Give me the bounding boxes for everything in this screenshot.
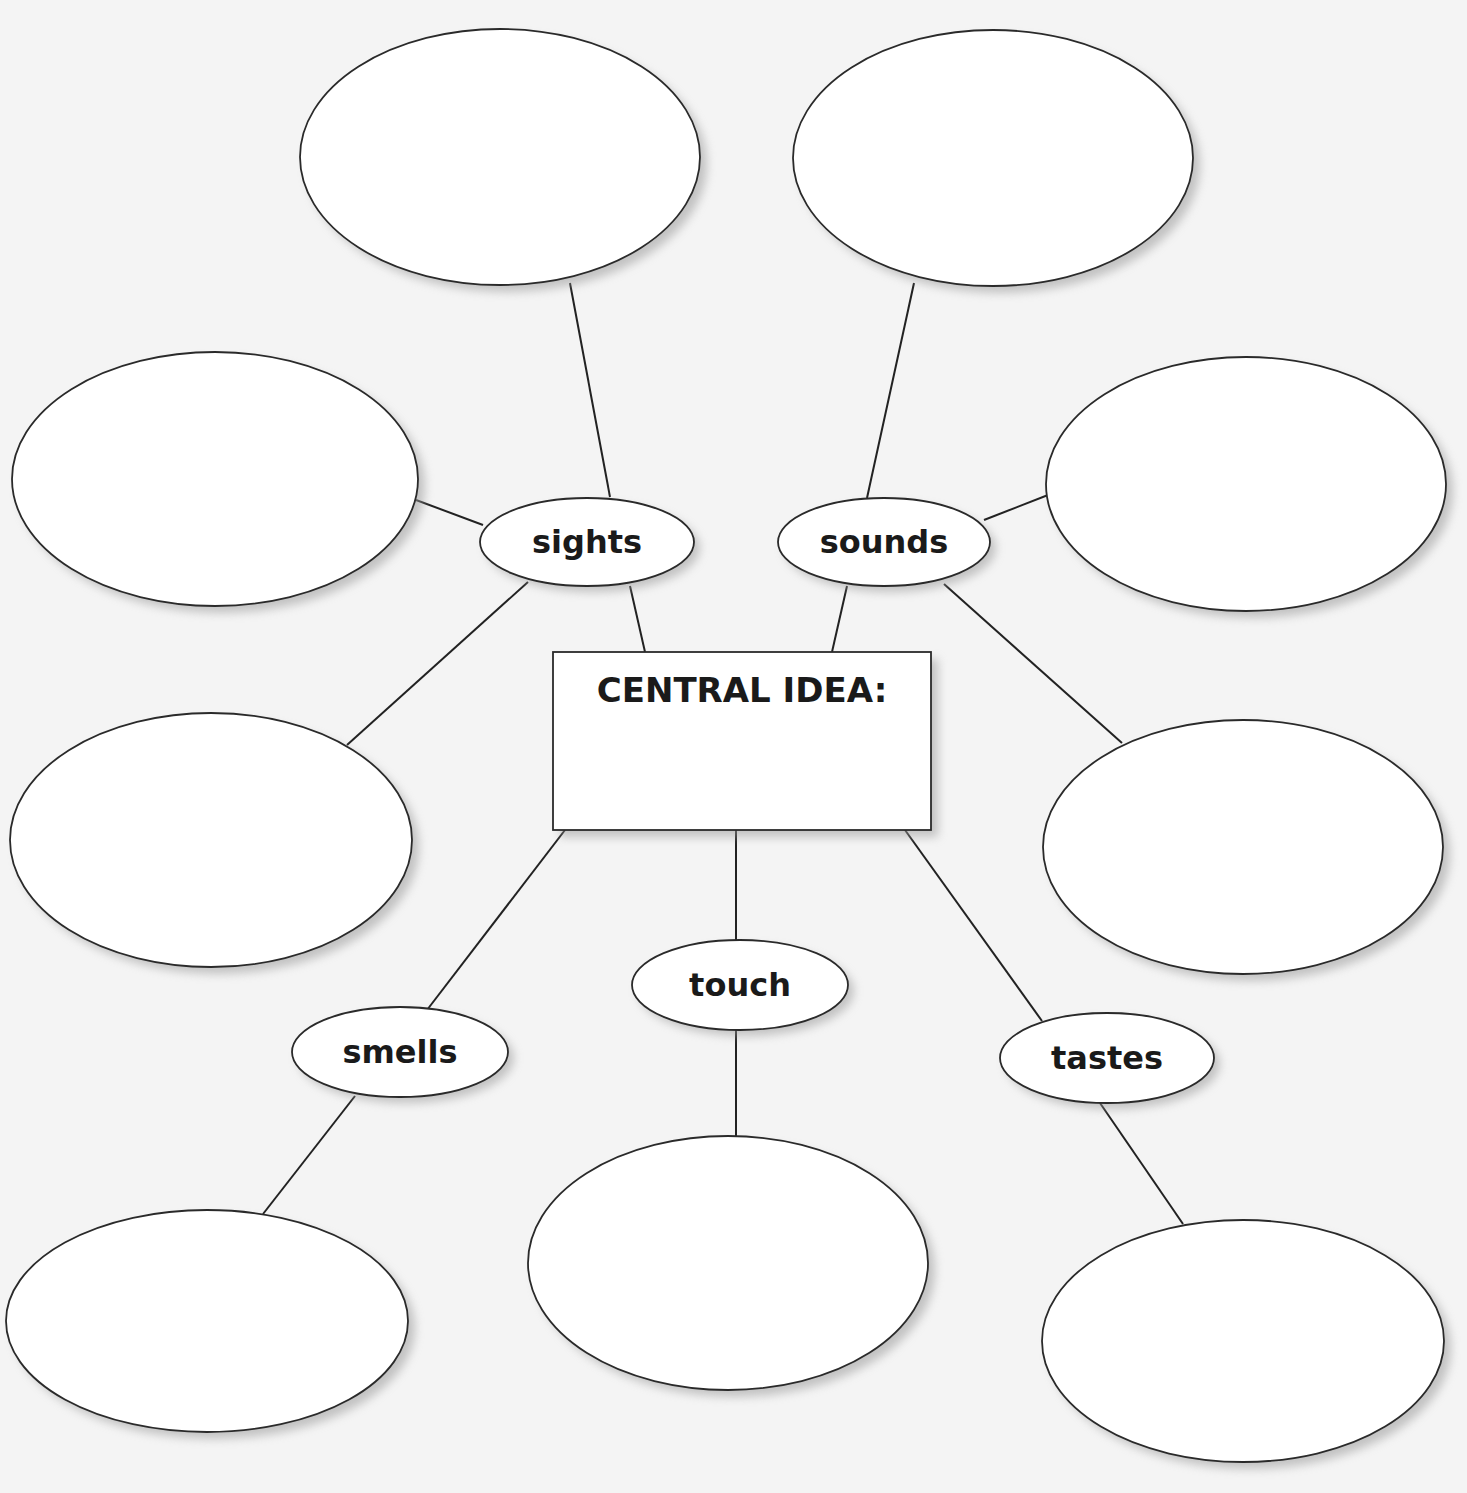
category-smells: smells [292,1007,514,1103]
graphic-organizer: CENTRAL IDEA: sightssoundstouchsmellstas… [0,0,1467,1493]
central-idea-title: CENTRAL IDEA: [597,670,887,710]
category-sights: sights [480,498,700,592]
connector-sounds-to-central [832,586,847,652]
detail-bubble-sounds-detail-2[interactable] [1046,357,1453,618]
connector-sounds-detail-2-to-sounds [984,495,1048,520]
detail-bubble-sights-detail-2[interactable] [12,352,425,613]
connector-sounds-detail-3-to-sounds [944,584,1122,743]
connector-tastes-to-tastes-detail-1 [1100,1103,1183,1224]
connector-sights-detail-2-to-sights [416,500,483,525]
detail-bubble-shape[interactable] [12,352,418,606]
detail-bubble-sounds-detail-3[interactable] [1043,720,1450,981]
category-label-touch: touch [689,966,791,1004]
detail-bubble-shape[interactable] [528,1136,928,1390]
detail-bubble-shape[interactable] [1046,357,1446,611]
category-label-smells: smells [342,1033,457,1071]
detail-bubble-sights-detail-1[interactable] [300,29,707,292]
detail-bubble-shape[interactable] [1043,720,1443,974]
category-label-sounds: sounds [820,523,949,561]
category-touch: touch [632,940,854,1036]
detail-bubble-sights-detail-3[interactable] [10,713,419,974]
connector-sights-detail-3-to-sights [347,582,528,745]
detail-bubble-shape[interactable] [300,29,700,285]
detail-bubble-shape[interactable] [6,1210,408,1432]
connector-central-to-tastes [905,830,1042,1021]
connector-central-to-smells [427,830,565,1010]
detail-bubble-touch-detail-1[interactable] [528,1136,935,1397]
detail-bubble-shape[interactable] [10,713,412,967]
connector-sights-to-central [630,586,645,652]
detail-bubble-tastes-detail-1[interactable] [1042,1220,1451,1469]
detail-bubble-shape[interactable] [793,30,1193,286]
category-sounds: sounds [778,498,996,592]
connector-sounds-detail-1-to-sounds [867,283,914,498]
category-tastes: tastes [1000,1013,1220,1109]
detail-bubble-smells-detail-1[interactable] [6,1210,415,1439]
connector-smells-to-smells-detail-1 [263,1096,355,1214]
connector-sights-detail-1-to-sights [570,283,610,497]
detail-bubble-sounds-detail-1[interactable] [793,30,1200,293]
central-idea-box: CENTRAL IDEA: [553,652,938,837]
category-label-sights: sights [532,523,642,561]
category-label-tastes: tastes [1051,1039,1163,1077]
detail-bubble-shape[interactable] [1042,1220,1444,1462]
